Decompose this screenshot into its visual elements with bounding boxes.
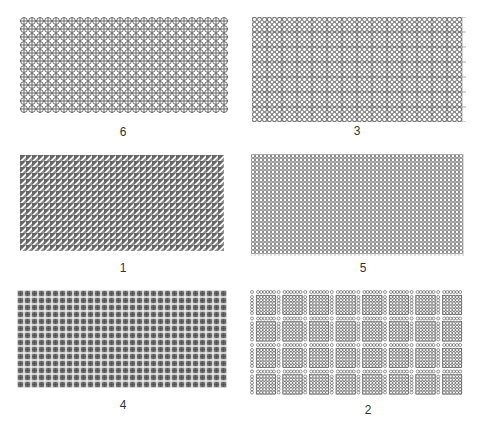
dense-circles-grid-pattern [252, 17, 466, 122]
panel-label-1: 1 [113, 261, 133, 275]
panel-3 [252, 17, 466, 122]
diagonal-triangles-pattern [20, 155, 229, 253]
block-groups-of-circles-pattern [250, 290, 463, 396]
panel-1 [20, 155, 229, 253]
panel-6 [20, 17, 229, 118]
fine-circle-grid-pattern [251, 154, 466, 256]
panel-4 [17, 290, 232, 392]
panel-label-4: 4 [113, 398, 133, 412]
panel-label-2: 2 [358, 403, 378, 417]
panel-label-5: 5 [353, 261, 373, 275]
panel-label-6: 6 [113, 125, 133, 139]
panel-2 [250, 290, 463, 396]
boxed-symbols-pattern [17, 290, 232, 392]
circle-with-cross-pattern [20, 17, 229, 118]
panel-5 [251, 154, 466, 256]
panel-label-3: 3 [347, 124, 367, 138]
